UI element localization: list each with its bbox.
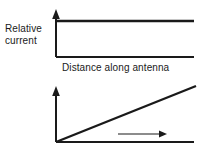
y-axis-label-current-line2: current [5,35,42,47]
y-axis-arrowhead-icon [52,9,60,19]
antenna-current-phase-figure: Relative current Distance along antenna … [0,0,216,166]
x-axis-label-current: Distance along antenna [62,62,169,74]
y-axis-label-current: Relative current [5,23,42,46]
panel-relative-phase-angle: Relative phase angle (lag) Wave directio… [0,83,216,166]
panel-relative-current: Relative current Distance along antenna [0,0,216,83]
wave-direction-arrowhead-icon [159,130,167,137]
relative-phase-angle-plot [0,83,216,166]
y-axis-label-current-line1: Relative [5,23,42,35]
y-axis-arrowhead-icon [52,86,60,96]
